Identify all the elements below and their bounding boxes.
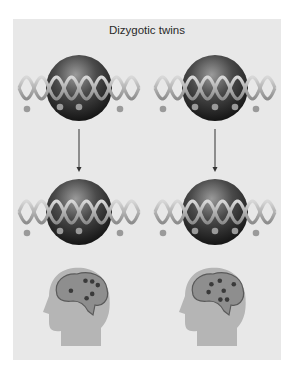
brain-dot	[83, 278, 88, 283]
brain-dot	[218, 278, 223, 283]
gene-bead	[192, 104, 199, 111]
gene-bead	[117, 230, 124, 237]
head-with-brain	[43, 268, 110, 346]
adult-genome	[155, 179, 275, 245]
gene-bead	[76, 228, 83, 235]
development-arrow	[213, 129, 218, 172]
twins-illustration	[0, 0, 294, 372]
development-arrow	[77, 129, 82, 172]
gene-bead	[57, 228, 64, 235]
brain-dot	[69, 289, 74, 294]
gene-bead	[232, 104, 239, 111]
brain-dot	[96, 283, 101, 288]
brain-dot	[221, 289, 226, 294]
zygote-genome	[19, 55, 139, 121]
brain-dot	[225, 297, 230, 302]
gene-bead	[212, 104, 219, 111]
gene-bead	[117, 106, 124, 113]
gene-bead	[253, 106, 260, 113]
brain-dot	[206, 290, 211, 295]
gene-bead	[212, 228, 219, 235]
brain-dot	[218, 297, 223, 302]
twin-column-1	[19, 55, 139, 346]
brain-dot	[90, 279, 95, 284]
gene-bead	[24, 230, 31, 237]
arrow-head	[77, 167, 82, 172]
gene-bead	[57, 104, 64, 111]
gene-bead	[76, 104, 83, 111]
brain-dot	[209, 282, 214, 287]
brain-dot	[90, 292, 95, 297]
arrow-head	[213, 167, 218, 172]
gene-bead	[232, 228, 239, 235]
gene-bead	[192, 228, 199, 235]
gene-bead	[253, 230, 260, 237]
twin-column-2	[155, 55, 275, 346]
gene-bead	[160, 106, 167, 113]
brain-dot	[232, 282, 237, 287]
adult-genome	[19, 179, 139, 245]
head-with-brain	[179, 268, 246, 346]
gene-bead	[24, 106, 31, 113]
brain-dot	[84, 296, 89, 301]
gene-bead	[160, 230, 167, 237]
zygote-genome	[155, 55, 275, 121]
